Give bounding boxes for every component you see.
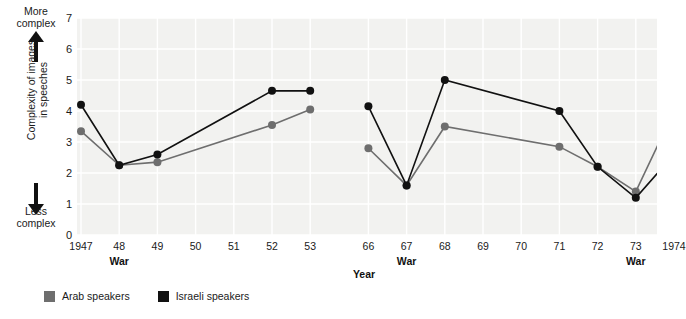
legend-label-arab: Arab speakers bbox=[62, 290, 130, 302]
x-tick-label: 69 bbox=[477, 240, 489, 252]
x-tick-label: 48 bbox=[113, 240, 125, 252]
x-tick-label: 49 bbox=[152, 240, 164, 252]
data-point bbox=[115, 161, 123, 169]
x-tick-label: 67 bbox=[401, 240, 413, 252]
x-tick-label: 52 bbox=[266, 240, 278, 252]
y-tick-label: 1 bbox=[56, 199, 72, 210]
data-point bbox=[153, 158, 161, 166]
x-tick-label: 66 bbox=[363, 240, 375, 252]
x-tick-label: 73 bbox=[630, 240, 642, 252]
data-point bbox=[441, 123, 449, 131]
x-tick-label: 50 bbox=[190, 240, 202, 252]
data-point bbox=[306, 87, 314, 95]
legend-swatch-arab bbox=[44, 291, 55, 302]
y-tick-label: 7 bbox=[56, 13, 72, 24]
data-point bbox=[555, 107, 563, 115]
y-tick-label: 5 bbox=[56, 75, 72, 86]
war-marker-label: War bbox=[397, 255, 416, 267]
x-tick-label: 68 bbox=[439, 240, 451, 252]
data-point bbox=[364, 102, 372, 110]
data-point bbox=[632, 194, 640, 202]
y-tick-label: 6 bbox=[56, 44, 72, 55]
y-tick-label: 2 bbox=[56, 168, 72, 179]
data-point bbox=[403, 181, 411, 189]
y-tick-label: 0 bbox=[56, 230, 72, 241]
x-tick-label: 70 bbox=[515, 240, 527, 252]
data-point bbox=[77, 127, 85, 135]
data-point bbox=[441, 76, 449, 84]
x-tick-label: 53 bbox=[304, 240, 316, 252]
data-point bbox=[268, 121, 276, 129]
legend-swatch-israeli bbox=[158, 291, 169, 302]
x-tick-label: 51 bbox=[228, 240, 240, 252]
x-tick-label: 72 bbox=[592, 240, 604, 252]
data-point bbox=[594, 163, 602, 171]
legend-label-israeli: Israeli speakers bbox=[176, 290, 250, 302]
arrow-down-shaft bbox=[34, 183, 38, 205]
plot-svg bbox=[77, 18, 657, 235]
x-tick-label: 1974 bbox=[662, 240, 685, 252]
legend: Arab speakers Israeli speakers bbox=[44, 290, 277, 302]
data-point bbox=[153, 150, 161, 158]
data-point bbox=[268, 87, 276, 95]
legend-item-israeli: Israeli speakers bbox=[158, 290, 250, 302]
y-axis-title: Complexity of images in speeches bbox=[25, 25, 49, 155]
x-axis-title: Year bbox=[353, 268, 375, 280]
y-tick-label: 4 bbox=[56, 106, 72, 117]
x-tick-label: 71 bbox=[554, 240, 566, 252]
data-point bbox=[555, 143, 563, 151]
data-point bbox=[364, 144, 372, 152]
legend-item-arab: Arab speakers bbox=[44, 290, 130, 302]
war-marker-label: War bbox=[109, 255, 128, 267]
data-point bbox=[77, 101, 85, 109]
data-point bbox=[306, 105, 314, 113]
x-tick-label: 1947 bbox=[69, 240, 92, 252]
war-marker-label: War bbox=[626, 255, 645, 267]
plot-area bbox=[77, 18, 657, 235]
y-tick-label: 3 bbox=[56, 137, 72, 148]
